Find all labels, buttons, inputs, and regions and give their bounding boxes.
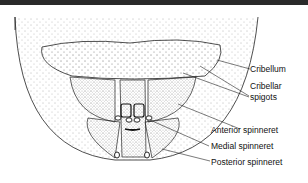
spinneret-diagram: Cribellum Cribellar spigots Anterior spi… [0,0,308,183]
medial-spinneret [120,80,146,157]
label-cribellar-spigots-1: Cribellar [250,81,282,91]
label-medial-spinneret: Medial spinneret [211,141,274,151]
label-cribellum: Cribellum [250,64,286,74]
label-posterior-spinneret: Posterior spinneret [211,157,283,167]
cribellum [42,40,221,79]
label-cribellar-spigots-2: spigots [250,92,277,102]
label-anterior-spinneret: Anterior spinneret [211,125,279,135]
